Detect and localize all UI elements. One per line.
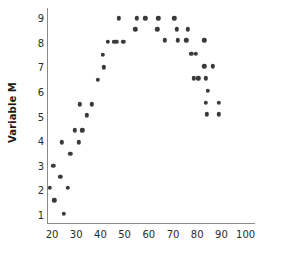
scatter-point	[102, 65, 106, 69]
scatter-point	[217, 101, 221, 105]
scatter-point	[184, 38, 188, 42]
scatter-point	[203, 101, 207, 105]
scatter-point	[205, 112, 209, 116]
scatter-point	[52, 198, 56, 202]
scatter-point	[189, 52, 193, 56]
scatter-point	[203, 76, 207, 80]
scatter-point	[47, 186, 51, 190]
scatter-point	[211, 64, 215, 68]
scatter-point	[121, 39, 125, 43]
scatter-point	[62, 212, 66, 216]
scatter-point	[116, 16, 120, 20]
scatter-point	[185, 27, 189, 31]
scatter-point	[78, 102, 82, 106]
scatter-point	[176, 38, 180, 42]
scatter-point	[196, 76, 200, 80]
scatter-point	[105, 39, 109, 43]
scatter-point	[96, 77, 100, 81]
scatter-point	[194, 52, 198, 56]
plot-area	[0, 0, 293, 256]
scatter-point	[206, 89, 210, 93]
scatter-point	[133, 27, 137, 31]
scatter-point	[58, 175, 62, 179]
scatter-point	[51, 164, 55, 168]
scatter-point	[134, 16, 138, 20]
scatter-point	[59, 140, 63, 144]
scatter-point	[191, 76, 195, 80]
scatter-point	[85, 113, 89, 117]
scatter-point	[155, 27, 159, 31]
scatter-plot-figure: Variable M 123456789 2030405060708090100	[0, 0, 293, 256]
scatter-point	[202, 38, 206, 42]
scatter-point	[174, 27, 178, 31]
scatter-point	[80, 128, 84, 132]
scatter-point	[162, 38, 166, 42]
scatter-point	[73, 128, 77, 132]
scatter-point	[66, 186, 70, 190]
scatter-point	[156, 16, 160, 20]
scatter-point	[101, 53, 105, 57]
scatter-point	[172, 16, 176, 20]
scatter-point	[90, 102, 94, 106]
scatter-point	[202, 64, 206, 68]
scatter-point	[143, 16, 147, 20]
scatter-point	[114, 39, 118, 43]
scatter-point	[76, 140, 80, 144]
scatter-point	[68, 151, 72, 155]
scatter-point	[217, 112, 221, 116]
